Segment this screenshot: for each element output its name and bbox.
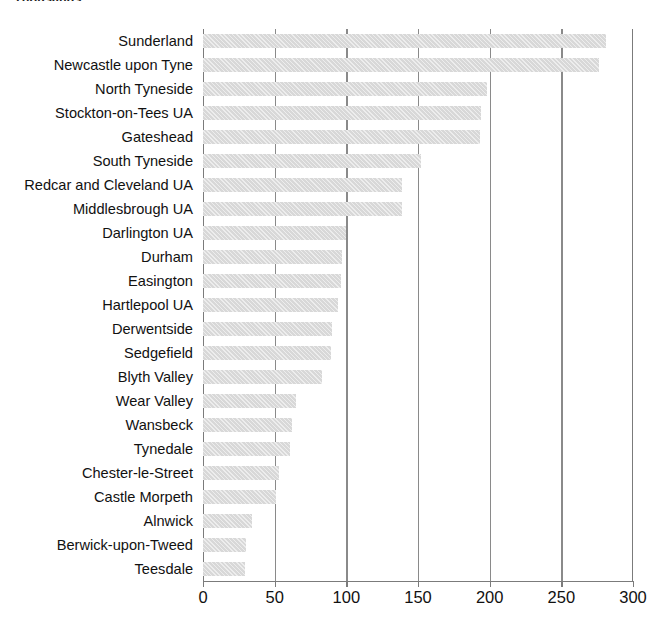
category-label: Teesdale <box>0 557 198 581</box>
bar-series <box>203 29 633 581</box>
bar-row <box>203 461 633 485</box>
bar <box>203 466 279 479</box>
bar-row <box>203 509 633 533</box>
category-label: Berwick-upon-Tweed <box>0 533 198 557</box>
bar <box>203 130 480 143</box>
category-label: Chester-le-Street <box>0 461 198 485</box>
category-label: Redcar and Cleveland UA <box>0 173 198 197</box>
bar <box>203 394 296 407</box>
category-label: Alnwick <box>0 509 198 533</box>
bar-row <box>203 293 633 317</box>
bar-row <box>203 221 633 245</box>
bar <box>203 154 421 167</box>
bar <box>203 202 402 215</box>
x-tick-100 <box>346 581 347 587</box>
category-label: North Tyneside <box>0 77 198 101</box>
bar <box>203 250 342 263</box>
x-tick-150 <box>418 581 419 587</box>
x-tick-label: 250 <box>548 588 576 607</box>
bar <box>203 58 599 71</box>
bar <box>203 274 341 287</box>
x-tick-label: 200 <box>476 588 504 607</box>
bar-row <box>203 269 633 293</box>
category-label: Wear Valley <box>0 389 198 413</box>
bar-row <box>203 389 633 413</box>
bar <box>203 418 292 431</box>
x-tick-label: 50 <box>265 588 283 607</box>
category-label: Castle Morpeth <box>0 485 198 509</box>
bar-row <box>203 29 633 53</box>
bar-row <box>203 77 633 101</box>
bar-row <box>203 101 633 125</box>
bar <box>203 178 402 191</box>
x-tick-label: 300 <box>619 588 647 607</box>
category-label: Gateshead <box>0 125 198 149</box>
bar-row <box>203 197 633 221</box>
units-caption: Thousands <box>14 0 82 1</box>
category-label: Sunderland <box>0 29 198 53</box>
bar <box>203 298 338 311</box>
category-label: Stockton-on-Tees UA <box>0 101 198 125</box>
category-label: Hartlepool UA <box>0 293 198 317</box>
bar-row <box>203 317 633 341</box>
bar-row <box>203 125 633 149</box>
bar <box>203 106 481 119</box>
category-label: Derwentside <box>0 317 198 341</box>
category-label: Durham <box>0 245 198 269</box>
category-label: South Tyneside <box>0 149 198 173</box>
bar-row <box>203 557 633 581</box>
bar-row <box>203 437 633 461</box>
x-tick-label: 100 <box>333 588 361 607</box>
category-label: Wansbeck <box>0 413 198 437</box>
bar-row <box>203 533 633 557</box>
bar <box>203 490 276 503</box>
x-tick-200 <box>490 581 491 587</box>
category-label: Sedgefield <box>0 341 198 365</box>
bar <box>203 34 606 47</box>
category-label: Newcastle upon Tyne <box>0 53 198 77</box>
bar-row <box>203 149 633 173</box>
x-tick-0 <box>203 581 204 587</box>
x-tick-label: 150 <box>404 588 432 607</box>
bar-row <box>203 485 633 509</box>
bar <box>203 538 246 551</box>
category-label: Easington <box>0 269 198 293</box>
x-tick-50 <box>275 581 276 587</box>
bar-row <box>203 365 633 389</box>
bar-row <box>203 341 633 365</box>
horizontal-bar-chart: Thousands SunderlandNewcastle upon TyneN… <box>0 0 657 620</box>
bar-row <box>203 173 633 197</box>
category-label: Darlington UA <box>0 221 198 245</box>
plot-area <box>203 29 633 581</box>
bar <box>203 82 487 95</box>
bar <box>203 442 290 455</box>
bar-row <box>203 413 633 437</box>
category-label: Blyth Valley <box>0 365 198 389</box>
bar <box>203 322 332 335</box>
bar <box>203 514 252 527</box>
x-tick-label: 0 <box>198 588 207 607</box>
bar <box>203 562 245 575</box>
bar-row <box>203 53 633 77</box>
bar-row <box>203 245 633 269</box>
bar <box>203 346 331 359</box>
bar <box>203 226 346 239</box>
category-label: Middlesbrough UA <box>0 197 198 221</box>
category-label: Tynedale <box>0 437 198 461</box>
x-tick-250 <box>561 581 562 587</box>
category-axis-labels: SunderlandNewcastle upon TyneNorth Tynes… <box>0 29 198 581</box>
bar <box>203 370 322 383</box>
x-tick-300 <box>633 581 634 587</box>
